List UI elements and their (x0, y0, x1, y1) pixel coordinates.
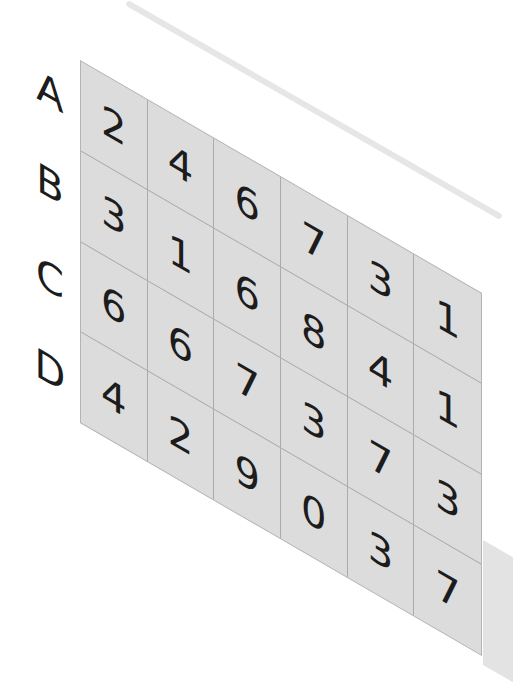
row-label-b: B (30, 152, 70, 215)
grid-shadow (483, 540, 513, 682)
row-label-a: A (30, 60, 70, 123)
row-labels: A B C D (30, 60, 70, 423)
row-label-c: C (30, 246, 70, 309)
number-grid: 2 4 6 7 3 1 3 1 6 8 4 1 6 6 7 3 7 3 4 2 … (80, 60, 482, 656)
row-label-d: D (30, 338, 70, 401)
number-grid-panel: 2 4 6 7 3 1 3 1 6 8 4 1 6 6 7 3 7 3 4 2 … (80, 60, 482, 656)
